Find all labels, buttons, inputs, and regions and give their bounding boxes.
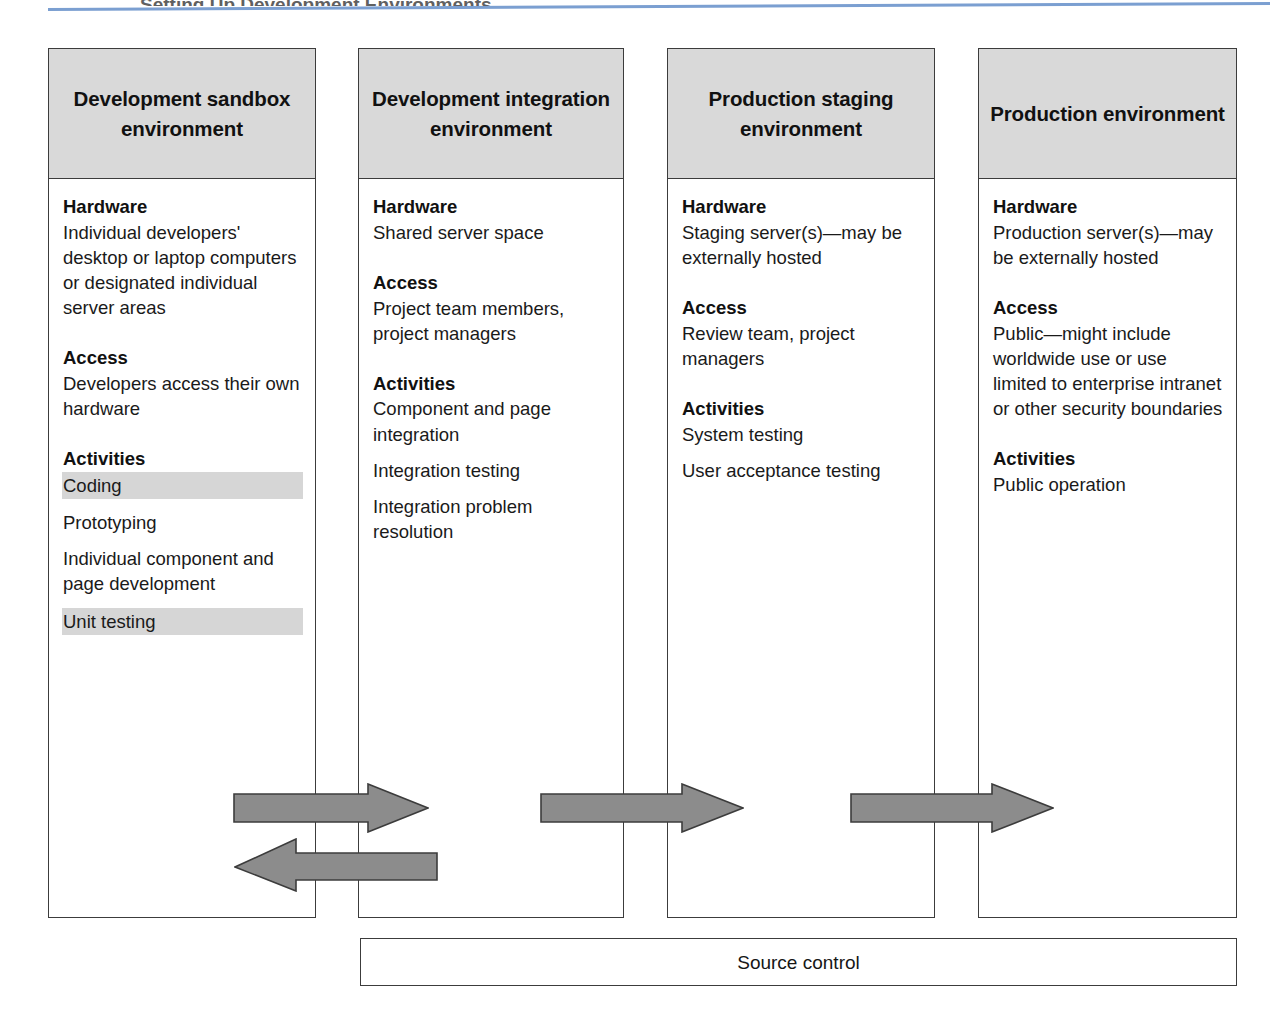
section-title: Hardware [682,195,922,219]
section-line: Staging server(s)—may be externally host… [682,220,922,270]
section-line-highlighted: Unit testing [62,608,303,635]
column-header-development-integration: Development integration environment [359,49,623,179]
section-title: Access [373,271,611,295]
section-activities: Activities Public operation [993,447,1224,497]
arrow-integration-to-staging-icon [540,783,744,833]
column-title: Production environment [990,99,1225,128]
section-access: Access Public—might include worldwide us… [993,296,1224,421]
section-line: Integration problem resolution [373,494,611,544]
section-title: Activities [993,447,1224,471]
column-title: Development integration environment [369,84,613,142]
column-header-development-sandbox: Development sandbox environment [49,49,315,179]
section-access: Access Developers access their own hardw… [63,346,303,421]
section-title: Access [682,296,922,320]
section-line: Public—might include worldwide use or us… [993,321,1224,422]
section-line: Integration testing [373,458,611,483]
section-title: Hardware [993,195,1224,219]
section-title: Activities [63,447,303,471]
section-line: Developers access their own hardware [63,371,303,421]
section-line: Prototyping [63,510,303,535]
column-body: Hardware Shared server space Access Proj… [359,179,623,556]
arrow-sandbox-to-integration-icon [233,783,429,833]
column-title: Development sandbox environment [59,84,305,142]
section-hardware: Hardware Staging server(s)—may be extern… [682,195,922,270]
source-control-label: Source control [737,953,860,972]
section-access: Access Review team, project managers [682,296,922,371]
arrow-staging-to-production-icon [850,783,1054,833]
section-title: Activities [373,372,611,396]
column-body: Hardware Individual developers' desktop … [49,179,315,647]
arrow-integration-to-sandbox-icon [234,838,438,892]
section-hardware: Hardware Individual developers' desktop … [63,195,303,320]
section-line: Review team, project managers [682,321,922,371]
section-title: Activities [682,397,922,421]
section-line: Component and page integration [373,396,611,446]
column-title: Production staging environment [678,84,924,142]
section-title: Hardware [373,195,611,219]
section-line: Individual component and page developmen… [63,546,303,596]
column-header-production-staging: Production staging environment [668,49,934,179]
section-line: User acceptance testing [682,458,922,483]
section-access: Access Project team members, project man… [373,271,611,346]
section-activities: Activities System testing User acceptanc… [682,397,922,483]
column-body: Hardware Staging server(s)—may be extern… [668,179,934,495]
section-line: Public operation [993,472,1224,497]
diagram-canvas: Setting Up Development Environments Deve… [0,0,1283,1016]
column-header-production: Production environment [979,49,1236,179]
section-line: Individual developers' desktop or laptop… [63,220,303,321]
section-line: Production server(s)—may be externally h… [993,220,1224,270]
section-activities: Activities Component and page integratio… [373,372,611,544]
section-hardware: Hardware Production server(s)—may be ext… [993,195,1224,270]
column-body: Hardware Production server(s)—may be ext… [979,179,1236,509]
section-title: Access [63,346,303,370]
page-header-ghost-text: Setting Up Development Environments [140,0,560,6]
section-hardware: Hardware Shared server space [373,195,611,245]
section-activities: Activities Coding Prototyping Individual… [63,447,303,634]
section-title: Access [993,296,1224,320]
section-line: Shared server space [373,220,611,245]
section-line: System testing [682,422,922,447]
source-control-bar: Source control [360,938,1237,986]
section-line: Project team members, project managers [373,296,611,346]
section-title: Hardware [63,195,303,219]
section-line-highlighted: Coding [62,472,303,499]
